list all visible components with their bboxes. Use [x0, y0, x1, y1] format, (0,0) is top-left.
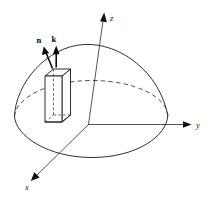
vector-n-label: n [37, 35, 42, 45]
diagram-background [0, 0, 210, 199]
slab-right-face [62, 69, 71, 122]
axis-z-label: z [109, 13, 114, 23]
slab-element [45, 69, 71, 122]
axis-x-label: x [24, 182, 29, 192]
axis-y-label: y [195, 120, 200, 130]
hemisphere-diagram: z y x n k [0, 0, 210, 199]
vector-k-label: k [52, 34, 57, 44]
